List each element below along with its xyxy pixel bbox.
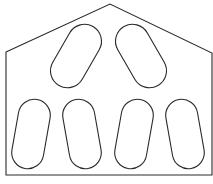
- plate-diagram: [0, 0, 213, 184]
- slot-bottom-4: [163, 97, 207, 171]
- slot-bottom-2: [60, 97, 104, 171]
- slot-bottom-3: [112, 97, 156, 171]
- plate-outline: [6, 4, 212, 175]
- slot-group: [9, 18, 207, 171]
- slot-bottom-1: [9, 97, 53, 171]
- figure-caption: [0, 178, 213, 184]
